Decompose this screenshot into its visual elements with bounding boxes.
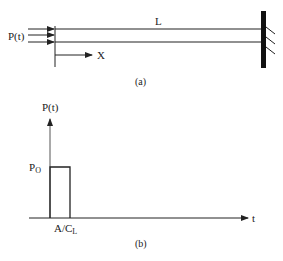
wall-hatch-1: [266, 27, 275, 34]
x-axis-label: X: [97, 49, 105, 61]
wall-hatch-3: [266, 47, 275, 54]
t-axis-label: t: [252, 212, 255, 224]
pulse-shape: [50, 167, 70, 218]
figure-a: P(t) X L (a): [8, 11, 275, 88]
amplitude-subscript: O: [35, 166, 41, 175]
duration-label: A/CL: [54, 222, 77, 236]
duration-subscript: L: [72, 227, 77, 236]
diagram-canvas: P(t) X L (a) P(t) t PO A/CL (b): [0, 0, 283, 261]
caption-a: (a): [135, 76, 146, 88]
caption-b: (b): [135, 238, 147, 250]
length-label: L: [155, 15, 162, 27]
y-axis-label: P(t): [42, 101, 59, 114]
figure-b: P(t) t PO A/CL (b): [29, 101, 255, 250]
force-label: P(t): [8, 30, 25, 43]
fixed-wall: [261, 11, 266, 68]
amplitude-label: PO: [29, 161, 41, 175]
wall-hatch-2: [266, 37, 275, 44]
